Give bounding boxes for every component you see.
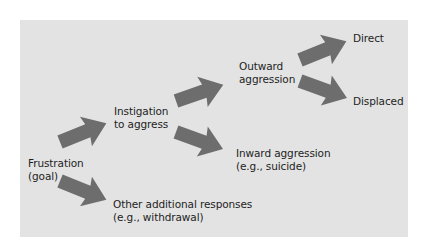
- node-direct-line1: Direct: [353, 32, 384, 45]
- node-displaced: Displaced: [353, 95, 404, 108]
- node-other-line2: (e.g., withdrawal): [113, 211, 252, 224]
- node-direct: Direct: [353, 32, 384, 45]
- node-outward-line1: Outward: [239, 60, 295, 73]
- node-inward-line2: (e.g., suicide): [236, 160, 330, 173]
- arrow-outward-to-displaced-icon: [295, 66, 353, 113]
- node-other-responses: Other additional responses (e.g., withdr…: [113, 198, 252, 224]
- node-displaced-line1: Displaced: [353, 95, 404, 108]
- node-outward-aggression: Outward aggression: [239, 60, 295, 86]
- node-frustration-line1: Frustration: [28, 157, 84, 170]
- arrow-instigation-to-outward-icon: [171, 70, 229, 117]
- node-instigation: Instigation to aggress: [114, 105, 168, 131]
- node-instigation-line1: Instigation: [114, 105, 168, 118]
- node-inward-line1: Inward aggression: [236, 147, 330, 160]
- node-frustration-line2: (goal): [28, 170, 84, 183]
- node-inward-aggression: Inward aggression (e.g., suicide): [236, 147, 330, 173]
- node-frustration: Frustration (goal): [28, 157, 84, 183]
- arrow-instigation-to-inward-icon: [171, 117, 229, 164]
- arrow-outward-to-direct-icon: [294, 26, 352, 74]
- node-instigation-line2: to aggress: [114, 118, 168, 131]
- node-outward-line2: aggression: [239, 73, 295, 86]
- node-other-line1: Other additional responses: [113, 198, 252, 211]
- arrow-frustration-to-instigation-icon: [54, 108, 112, 156]
